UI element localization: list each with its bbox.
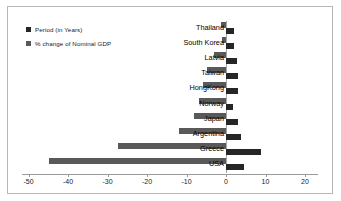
x-axis-tick-label: 20 [293,178,317,185]
x-axis-tick-label: -20 [135,178,159,185]
category-label: Argentina [38,127,224,141]
category-label: Latvia [38,51,224,65]
x-axis-tick [29,174,30,177]
x-axis-tick [187,174,188,177]
bar-period-years [226,149,261,155]
x-axis-tick [147,174,148,177]
x-axis-tick-label: -50 [17,178,41,185]
x-axis-tick [305,174,306,177]
bar-period-years [226,119,238,125]
bar-series-container: ThailandSouth KoreaLatviaTaiwanHongKongN… [8,7,334,195]
bar-period-years [226,43,234,49]
x-axis-tick-label: 0 [214,178,238,185]
x-axis-tick-label: -10 [175,178,199,185]
bar-period-years [226,104,233,110]
x-axis-tick [266,174,267,177]
x-axis-tick-label: -40 [56,178,80,185]
bar-period-years [226,164,244,170]
category-label: HongKong [38,81,224,95]
x-axis-tick [68,174,69,177]
x-axis-line [22,174,318,175]
bar-period-years [226,58,237,64]
bar-period-years [226,73,238,79]
x-axis-tick [108,174,109,177]
x-axis-tick [226,174,227,177]
bar-period-years [226,134,241,140]
chart-frame: Period (in Years) % change of Nominal GD… [7,6,333,194]
plot-area: Period (in Years) % change of Nominal GD… [8,7,334,195]
category-label: Norway [38,97,224,111]
category-label: Greece [38,142,224,156]
x-axis-tick-label: 10 [254,178,278,185]
category-label: South Korea [38,36,224,50]
category-label: Thailand [38,21,224,35]
category-label: USA [38,157,224,171]
category-label: Japan [38,112,224,126]
category-label: Taiwan [38,66,224,80]
bar-period-years [226,88,238,94]
bar-period-years [226,28,234,34]
x-axis-tick-label: -30 [96,178,120,185]
